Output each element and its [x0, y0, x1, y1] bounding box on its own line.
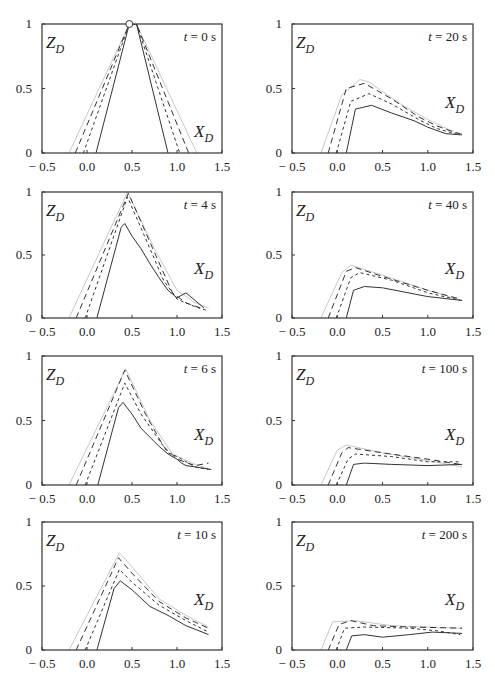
y-tick-label: 1 — [26, 348, 33, 363]
time-label: t = 200 s — [422, 527, 467, 542]
x-tick-label: − 0.5 — [29, 491, 56, 506]
x-axis-label: XD — [193, 425, 213, 448]
x-tick-label: 0.0 — [79, 491, 95, 506]
x-tick-label: − 0.5 — [29, 656, 56, 671]
panel-10s: − 0.50.00.51.01.500.51ZDXDt = 10 s — [16, 514, 230, 671]
x-axis-label: XD — [444, 259, 464, 282]
y-tick-label: 0.5 — [16, 578, 32, 593]
y-tick-label: 1 — [26, 514, 33, 529]
y-axis-label: ZD — [296, 365, 314, 388]
x-tick-label: 1.0 — [169, 656, 185, 671]
x-tick-label: − 0.5 — [29, 159, 56, 174]
x-tick-label: 1.0 — [169, 159, 185, 174]
x-tick-label: − 0.5 — [279, 159, 306, 174]
x-tick-label: 0.5 — [374, 324, 390, 339]
x-tick-label: 0.5 — [124, 159, 140, 174]
panel-4s: − 0.50.00.51.01.500.51ZDXDt = 4 s — [16, 184, 230, 339]
x-axis-label: XD — [193, 122, 213, 145]
x-tick-label: 0.5 — [374, 491, 390, 506]
y-tick-label: 0.5 — [266, 578, 282, 593]
x-tick-label: 0.5 — [374, 656, 390, 671]
series-outer — [321, 265, 462, 318]
series-outer — [69, 24, 197, 153]
time-label: t = 6 s — [184, 361, 216, 376]
x-axis-label: XD — [193, 259, 213, 282]
x-tick-label: 0.0 — [329, 656, 345, 671]
time-label: t = 40 s — [428, 197, 467, 212]
y-tick-label: 1 — [26, 184, 33, 199]
series-dash-short — [336, 454, 460, 485]
x-tick-label: 0.0 — [79, 159, 95, 174]
y-tick-label: 0 — [26, 310, 33, 325]
x-tick-label: − 0.5 — [279, 491, 306, 506]
x-tick-label: 0.0 — [79, 656, 95, 671]
x-tick-label: 0.0 — [329, 159, 345, 174]
x-axis-label: XD — [444, 93, 464, 116]
x-tick-label: − 0.5 — [279, 324, 306, 339]
x-tick-label: 1.5 — [465, 159, 481, 174]
y-axis-label: ZD — [296, 531, 314, 554]
x-axis-label: XD — [444, 590, 464, 613]
y-tick-label: 1 — [26, 16, 33, 31]
series-dash-short — [336, 273, 460, 318]
series-outer — [321, 80, 462, 154]
figure-grid: − 0.50.00.51.01.500.51ZDXDt = 0 s− 0.50.… — [0, 0, 495, 686]
series-solid — [346, 105, 462, 153]
x-tick-label: 0.5 — [124, 656, 140, 671]
series-dash-long — [76, 193, 204, 318]
x-tick-label: 0.5 — [124, 324, 140, 339]
panel-40s: − 0.50.00.51.01.500.51ZDXDt = 40 s — [266, 184, 481, 339]
y-tick-label: 0.5 — [266, 413, 282, 428]
y-tick-label: 1 — [276, 184, 283, 199]
y-axis-label: ZD — [46, 33, 64, 56]
x-tick-label: 1.0 — [420, 159, 436, 174]
y-tick-label: 0 — [26, 477, 33, 492]
y-tick-label: 0.5 — [16, 81, 32, 96]
y-tick-label: 1 — [276, 514, 283, 529]
x-tick-label: 0.0 — [329, 324, 345, 339]
y-axis-label: ZD — [296, 201, 314, 224]
y-tick-label: 0 — [26, 642, 33, 657]
y-tick-label: 0 — [276, 477, 283, 492]
x-tick-label: 1.5 — [214, 324, 230, 339]
x-tick-label: 1.0 — [169, 491, 185, 506]
x-tick-label: 1.5 — [214, 656, 230, 671]
y-tick-label: 1 — [276, 16, 283, 31]
y-tick-label: 0.5 — [266, 81, 282, 96]
series-solid — [346, 287, 462, 319]
panel-20s: − 0.50.00.51.01.500.51ZDXDt = 20 s — [266, 16, 481, 174]
time-label: t = 4 s — [184, 197, 216, 212]
x-tick-label: 1.0 — [420, 324, 436, 339]
x-tick-label: 1.0 — [420, 491, 436, 506]
y-axis-label: ZD — [46, 201, 64, 224]
panel-100s: − 0.50.00.51.01.500.51ZDXDt = 100 s — [266, 348, 481, 506]
y-axis-label: ZD — [46, 531, 64, 554]
y-tick-label: 1 — [276, 348, 283, 363]
x-tick-label: − 0.5 — [279, 656, 306, 671]
x-tick-label: − 0.5 — [29, 324, 56, 339]
series-dash-short — [336, 627, 460, 650]
x-tick-label: 0.5 — [374, 159, 390, 174]
y-tick-label: 0 — [276, 145, 283, 160]
panel-0s: − 0.50.00.51.01.500.51ZDXDt = 0 s — [16, 16, 230, 174]
y-tick-label: 0 — [276, 642, 283, 657]
x-tick-label: 1.5 — [214, 491, 230, 506]
time-label: t = 20 s — [428, 29, 467, 44]
series-dash-long — [76, 370, 208, 485]
open-circle-marker-icon — [126, 21, 133, 28]
time-label: t = 0 s — [184, 29, 216, 44]
y-axis-label: ZD — [296, 33, 314, 56]
x-axis-label: XD — [193, 590, 213, 613]
x-tick-label: 0.0 — [329, 491, 345, 506]
x-tick-label: 1.0 — [169, 324, 185, 339]
time-label: t = 10 s — [177, 527, 216, 542]
time-label: t = 100 s — [422, 361, 467, 376]
series-dash-long — [75, 24, 188, 153]
panel-6s: − 0.50.00.51.01.500.51ZDXDt = 6 s — [16, 348, 230, 506]
x-tick-label: 1.5 — [465, 491, 481, 506]
x-tick-label: 1.0 — [420, 656, 436, 671]
x-tick-label: 0.5 — [124, 491, 140, 506]
series-dash-short — [83, 24, 179, 153]
y-tick-label: 0.5 — [16, 247, 32, 262]
x-tick-label: 1.5 — [465, 656, 481, 671]
